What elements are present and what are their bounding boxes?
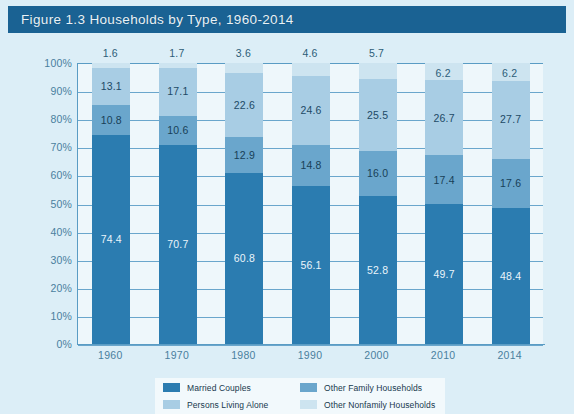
legend-label: Married Couples bbox=[187, 383, 251, 393]
legend-label: Other Family Households bbox=[324, 383, 422, 393]
bar-segment[interactable]: 10.8 bbox=[92, 105, 130, 135]
bar-top-value-label: 3.6 bbox=[236, 47, 251, 59]
bar-segment[interactable]: 25.5 bbox=[359, 79, 397, 151]
bar-stack[interactable]: 52.816.025.5 bbox=[359, 63, 397, 344]
bar-value-label: 24.6 bbox=[300, 105, 321, 116]
bar-value-label: 17.6 bbox=[500, 178, 521, 189]
bar-segment[interactable]: 70.7 bbox=[159, 145, 197, 344]
y-axis-tick-label: 90% bbox=[50, 85, 72, 97]
y-axis-tick-label: 40% bbox=[50, 226, 72, 238]
bar-value-label: 27.7 bbox=[500, 114, 521, 125]
legend-item[interactable]: Other Nonfamily Households bbox=[300, 398, 437, 412]
bar-segment[interactable] bbox=[292, 63, 330, 76]
bar-stack[interactable]: 74.410.813.1 bbox=[92, 63, 130, 344]
bar-stack[interactable]: 49.717.426.7 bbox=[425, 63, 463, 344]
bar-segment[interactable]: 26.7 bbox=[425, 80, 463, 155]
bar-value-label: 52.8 bbox=[367, 265, 388, 276]
bar-top-value-label: 1.6 bbox=[103, 47, 118, 59]
bar-value-label: 16.0 bbox=[367, 168, 388, 179]
bar-segment[interactable]: 52.8 bbox=[359, 196, 397, 344]
figure-title: Figure 1.3 Households by Type, 1960-2014 bbox=[8, 12, 294, 27]
bar-stack[interactable]: 48.417.627.7 bbox=[492, 63, 530, 344]
bar-value-label: 48.4 bbox=[500, 271, 521, 282]
y-axis: 100%90%80%70%60%50%40%30%20%10%0% bbox=[0, 63, 72, 344]
bar-segment[interactable]: 17.6 bbox=[492, 159, 530, 208]
y-axis-tick-label: 60% bbox=[50, 169, 72, 181]
x-axis-tick-label: 2010 bbox=[431, 349, 456, 361]
bar-segment[interactable]: 48.4 bbox=[492, 208, 530, 344]
bar-stack[interactable]: 70.710.617.1 bbox=[159, 63, 197, 344]
x-axis-tick-label: 1980 bbox=[231, 349, 256, 361]
bar-segment[interactable]: 17.1 bbox=[159, 68, 197, 116]
bar-segment[interactable] bbox=[92, 63, 130, 67]
bar-segment[interactable]: 24.6 bbox=[292, 76, 330, 145]
legend-label: Persons Living Alone bbox=[187, 400, 268, 410]
bar-segment[interactable]: 60.8 bbox=[225, 173, 263, 344]
y-axis-tick-label: 20% bbox=[50, 282, 72, 294]
bar-value-label: 10.8 bbox=[101, 115, 122, 126]
bar-value-label: 25.5 bbox=[367, 110, 388, 121]
legend-swatch-icon bbox=[300, 383, 317, 392]
figure-title-bar: Figure 1.3 Households by Type, 1960-2014 bbox=[8, 6, 566, 33]
chart-legend: Married CouplesOther Family HouseholdsPe… bbox=[155, 378, 445, 414]
bar-segment[interactable]: 13.1 bbox=[92, 68, 130, 105]
bar-value-label: 22.6 bbox=[234, 100, 255, 111]
bar-top-value-label: 1.7 bbox=[169, 47, 184, 59]
bar-segment[interactable]: 49.7 bbox=[425, 204, 463, 344]
bar-value-label: 17.4 bbox=[434, 175, 455, 186]
legend-item[interactable]: Married Couples bbox=[163, 381, 300, 395]
chart-area: 100%90%80%70%60%50%40%30%20%10%0% 74.410… bbox=[0, 33, 574, 404]
x-axis-line bbox=[77, 344, 545, 345]
bar-segment[interactable]: 74.4 bbox=[92, 135, 130, 344]
x-axis-tick-label: 2014 bbox=[497, 349, 522, 361]
bar-segment[interactable] bbox=[225, 63, 263, 73]
bar-value-label: 14.8 bbox=[300, 160, 321, 171]
bar-value-label: 74.4 bbox=[101, 234, 122, 245]
bar-top-value-label: 5.7 bbox=[369, 47, 384, 59]
bar-segment[interactable]: 10.6 bbox=[159, 116, 197, 146]
bar-value-label: 13.1 bbox=[101, 81, 122, 92]
bar-top-value-label: 6.2 bbox=[502, 67, 517, 79]
bar-segment[interactable] bbox=[159, 63, 197, 68]
bar-value-label: 12.9 bbox=[234, 150, 255, 161]
bar-value-label: 17.1 bbox=[167, 86, 188, 97]
y-axis-tick-label: 10% bbox=[50, 310, 72, 322]
bar-segment[interactable]: 12.9 bbox=[225, 137, 263, 173]
bar-value-label: 56.1 bbox=[300, 260, 321, 271]
bar-stack[interactable]: 60.812.922.6 bbox=[225, 63, 263, 344]
bar-top-value-label: 6.2 bbox=[436, 67, 451, 79]
bar-segment[interactable]: 16.0 bbox=[359, 151, 397, 196]
y-axis-tick-label: 50% bbox=[50, 198, 72, 210]
bar-value-label: 10.6 bbox=[167, 125, 188, 136]
gridline bbox=[78, 345, 543, 346]
legend-item[interactable]: Persons Living Alone bbox=[163, 398, 300, 412]
bar-value-label: 70.7 bbox=[167, 239, 188, 250]
y-axis-tick-label: 0% bbox=[56, 338, 72, 350]
bar-segment[interactable]: 56.1 bbox=[292, 186, 330, 344]
legend-swatch-icon bbox=[163, 400, 180, 409]
legend-item[interactable]: Other Family Households bbox=[300, 381, 437, 395]
bar-value-label: 26.7 bbox=[434, 113, 455, 124]
bar-segment[interactable]: 27.7 bbox=[492, 81, 530, 159]
x-axis-tick-label: 1960 bbox=[98, 349, 123, 361]
plot-area: 74.410.813.170.710.617.160.812.922.656.1… bbox=[77, 63, 543, 344]
legend-label: Other Nonfamily Households bbox=[324, 400, 435, 410]
bar-top-value-label: 4.6 bbox=[302, 47, 317, 59]
y-axis-tick-label: 30% bbox=[50, 254, 72, 266]
y-axis-tick-label: 80% bbox=[50, 113, 72, 125]
bar-segment[interactable] bbox=[359, 63, 397, 79]
x-axis-tick-label: 1970 bbox=[165, 349, 190, 361]
x-axis-tick-label: 2000 bbox=[364, 349, 389, 361]
bar-value-label: 49.7 bbox=[434, 269, 455, 280]
y-axis-tick-label: 100% bbox=[44, 57, 72, 69]
bar-value-label: 60.8 bbox=[234, 253, 255, 264]
bar-segment[interactable]: 14.8 bbox=[292, 145, 330, 187]
legend-swatch-icon bbox=[300, 400, 317, 409]
legend-swatch-icon bbox=[163, 383, 180, 392]
y-axis-tick-label: 70% bbox=[50, 141, 72, 153]
bar-stack[interactable]: 56.114.824.6 bbox=[292, 63, 330, 344]
bar-segment[interactable]: 17.4 bbox=[425, 155, 463, 204]
x-axis-tick-label: 1990 bbox=[298, 349, 323, 361]
bar-segment[interactable]: 22.6 bbox=[225, 73, 263, 137]
